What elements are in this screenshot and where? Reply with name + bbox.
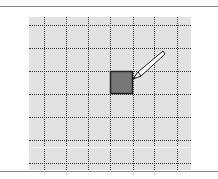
selected-cell[interactable] xyxy=(111,72,133,94)
bottom-rule xyxy=(0,171,218,172)
pencil-icon xyxy=(133,51,165,79)
selection-overlay xyxy=(0,0,218,179)
